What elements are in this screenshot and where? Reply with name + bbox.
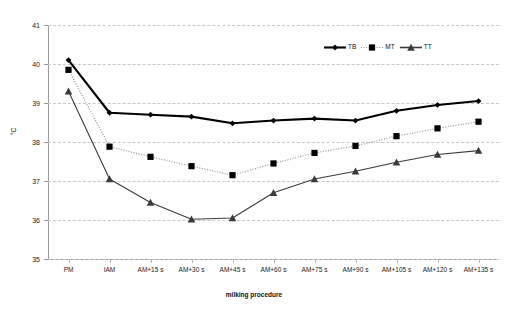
y-tick-label: 38 — [18, 139, 40, 146]
legend-label: TB — [348, 44, 356, 51]
data-point-marker — [106, 144, 112, 150]
y-tick-label: 41 — [18, 22, 40, 29]
x-tick-mark — [110, 259, 111, 263]
x-axis-title: milking procedure — [0, 291, 508, 298]
x-tick-label: AM+135 s — [449, 267, 508, 274]
data-point-marker — [394, 108, 400, 114]
x-tick-mark — [397, 259, 398, 263]
x-tick-mark — [438, 259, 439, 263]
x-tick-mark — [192, 259, 193, 263]
data-point-marker — [65, 88, 73, 95]
data-point-marker — [393, 133, 399, 139]
data-point-marker — [475, 119, 481, 125]
legend-label: MT — [385, 44, 394, 51]
data-point-marker — [434, 125, 440, 131]
data-point-marker — [353, 118, 359, 124]
x-tick-mark — [274, 259, 275, 263]
data-point-marker — [311, 150, 317, 156]
data-point-marker — [435, 102, 441, 108]
data-point-marker — [369, 44, 375, 50]
x-tick-mark — [233, 259, 234, 263]
series-line — [69, 91, 479, 219]
data-point-marker — [332, 45, 338, 51]
data-point-marker — [271, 118, 277, 124]
data-point-marker — [476, 98, 482, 104]
x-tick-mark — [356, 259, 357, 263]
y-axis-title: °C — [10, 128, 17, 135]
legend-entry-tt: TT — [400, 43, 432, 52]
y-tick-label: 35 — [18, 256, 40, 263]
x-tick-mark — [315, 259, 316, 263]
legend-swatch-diamond-icon — [324, 43, 346, 52]
data-point-marker — [230, 120, 236, 126]
plot-area — [48, 25, 499, 259]
legend-swatch-square-icon — [361, 43, 383, 52]
data-point-marker — [147, 154, 153, 160]
data-point-marker — [312, 116, 318, 122]
data-point-marker — [189, 114, 195, 120]
y-tick-label: 40 — [18, 61, 40, 68]
data-point-marker — [65, 67, 71, 73]
series-layer — [48, 25, 499, 259]
legend-entry-mt: MT — [361, 43, 394, 52]
x-tick-mark — [151, 259, 152, 263]
series-line — [69, 60, 479, 123]
chart-container: °C 35363738394041 PMIAMAM+15 sAM+30 sAM+… — [0, 0, 508, 317]
data-point-marker — [148, 112, 154, 118]
data-point-marker — [270, 189, 278, 196]
y-tick-label: 36 — [18, 217, 40, 224]
data-point-marker — [147, 199, 155, 206]
y-tick-label: 37 — [18, 178, 40, 185]
series-tb — [66, 57, 482, 126]
x-tick-mark — [69, 259, 70, 263]
legend-label: TT — [424, 44, 432, 51]
data-point-marker — [352, 143, 358, 149]
data-point-marker — [270, 160, 276, 166]
chart-legend: TBMTTT — [322, 42, 434, 53]
legend-swatch-triangle-icon — [400, 43, 422, 52]
y-tick-label: 39 — [18, 100, 40, 107]
x-tick-mark — [479, 259, 480, 263]
data-point-marker — [106, 175, 114, 182]
legend-entry-tb: TB — [324, 43, 356, 52]
data-point-marker — [188, 163, 194, 169]
data-point-marker — [229, 172, 235, 178]
